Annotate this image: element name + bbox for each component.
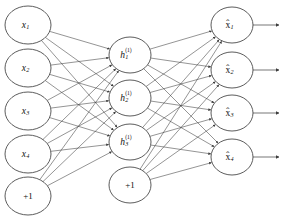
node-x2[interactable]: x2 <box>5 49 51 87</box>
edge-x3-to-h3 <box>50 118 110 136</box>
edge-bias-hidden-to-xhat1 <box>140 41 222 169</box>
node-circle-h3 <box>109 124 151 160</box>
node-bias-in[interactable]: +1 <box>5 177 51 215</box>
node-xhat1[interactable]: x̂1 <box>211 7 253 43</box>
node-xhat2[interactable]: x̂2 <box>211 52 253 88</box>
node-circle-h2 <box>109 80 151 116</box>
edge-h3-to-xhat2 <box>146 82 215 131</box>
edge-x1-to-h3 <box>41 40 117 127</box>
node-x4[interactable]: x4 <box>5 135 51 173</box>
node-x1[interactable]: x1 <box>5 6 51 44</box>
node-xhat3[interactable]: x̂3 <box>211 95 253 131</box>
node-h2[interactable]: h2(1) <box>109 80 151 116</box>
nodes-group: x1x2x3x4+1h1(1)h2(1)h3(1)+1x̂1x̂2x̂3x̂4 <box>5 6 253 215</box>
edge-h3-to-xhat1 <box>143 40 220 128</box>
node-bias-hidden[interactable]: +1 <box>109 167 151 203</box>
node-xhat4[interactable]: x̂4 <box>211 139 253 175</box>
neural-network-diagram: x1x2x3x4+1h1(1)h2(1)h3(1)+1x̂1x̂2x̂3x̂4 <box>0 0 284 223</box>
edge-bias-hidden-to-xhat3 <box>146 125 215 174</box>
edge-bias-in-to-h2 <box>43 112 116 182</box>
output-arrows-group <box>253 25 279 157</box>
edge-x4-to-h1 <box>43 69 116 140</box>
edge-x3-to-h2 <box>51 101 109 108</box>
node-h3[interactable]: h3(1) <box>109 124 151 160</box>
edge-x4-to-h3 <box>51 145 109 152</box>
node-label-bias-in: +1 <box>23 191 33 201</box>
edge-bias-hidden-to-xhat2 <box>143 85 219 171</box>
edge-bias-hidden-to-xhat4 <box>150 163 212 180</box>
node-h1[interactable]: h1(1) <box>109 37 151 73</box>
node-label-bias-hidden: +1 <box>125 180 135 190</box>
node-circle-h1 <box>109 37 151 73</box>
edge-x2-to-h3 <box>45 81 113 131</box>
network-canvas: x1x2x3x4+1h1(1)h2(1)h3(1)+1x̂1x̂2x̂3x̂4 <box>0 0 284 223</box>
edge-h2-to-xhat1 <box>146 37 215 87</box>
edge-bias-in-to-h3 <box>47 152 111 186</box>
edge-x1-to-h1 <box>50 31 110 49</box>
node-x3[interactable]: x3 <box>5 92 51 130</box>
edge-x3-to-h1 <box>47 65 112 101</box>
edge-x1-to-h2 <box>45 37 113 86</box>
